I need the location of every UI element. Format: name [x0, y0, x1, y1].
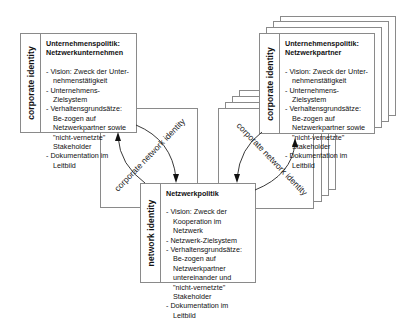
list-item: - Vision: Zweck der Kooperation im Netzw…: [166, 207, 252, 235]
box-title: Netzwerkpolitik: [166, 189, 252, 198]
title-line-1: Unternehmenspolitik:: [285, 39, 371, 48]
side-label-column: network identity: [141, 184, 161, 282]
list-item: - Verhaltensgrundsätze: Be-zogen auf Net…: [166, 245, 252, 301]
list-item: - Unternehmens-Zielsystem: [285, 86, 371, 105]
list-item: - Netzwerk-Zielsystem: [166, 236, 252, 245]
corporate-identity-label: corporate identity: [265, 47, 275, 121]
list-item: - Vision: Zweck der Unter-nehmenstätigke…: [285, 67, 371, 86]
list-item: - Vision: Zweck der Unter-nehmenstätigke…: [46, 67, 133, 86]
right-partner-policy-box: corporate identity Unternehmenspolitik: …: [259, 33, 375, 134]
side-label-column: corporate identity: [21, 34, 41, 132]
left-company-policy-box: corporate identity Unternehmenspolitik: …: [20, 33, 137, 133]
title-line-1: Unternehmenspolitik:: [46, 39, 133, 48]
list-item: - Dokumentation im Leitbild: [46, 151, 133, 170]
network-policy-box: network identity Netzwerkpolitik - Visio…: [140, 183, 256, 283]
list-item: - Verhaltensgrundsätze: Be-zogen auf Net…: [46, 104, 133, 151]
list-item: - Verhaltensgrundsätze: Be-zogen auf Net…: [285, 104, 371, 151]
list-item: - Unternehmens-Zielsystem: [46, 86, 133, 105]
box-title: Unternehmenspolitik: Netzwerkunternehmen: [46, 39, 133, 58]
network-identity-label: network identity: [146, 200, 156, 267]
title-line-2: Netzwerkpartner: [285, 48, 371, 57]
box-title: Unternehmenspolitik: Netzwerkpartner: [285, 39, 371, 58]
list-item: - Dokumentation im Leitbild: [285, 151, 371, 170]
side-label-column: corporate identity: [260, 34, 280, 133]
corporate-identity-label: corporate identity: [26, 46, 36, 120]
list-item: - Dokumentation im Leitbild: [166, 301, 252, 320]
title-line-2: Netzwerkunternehmen: [46, 48, 133, 57]
